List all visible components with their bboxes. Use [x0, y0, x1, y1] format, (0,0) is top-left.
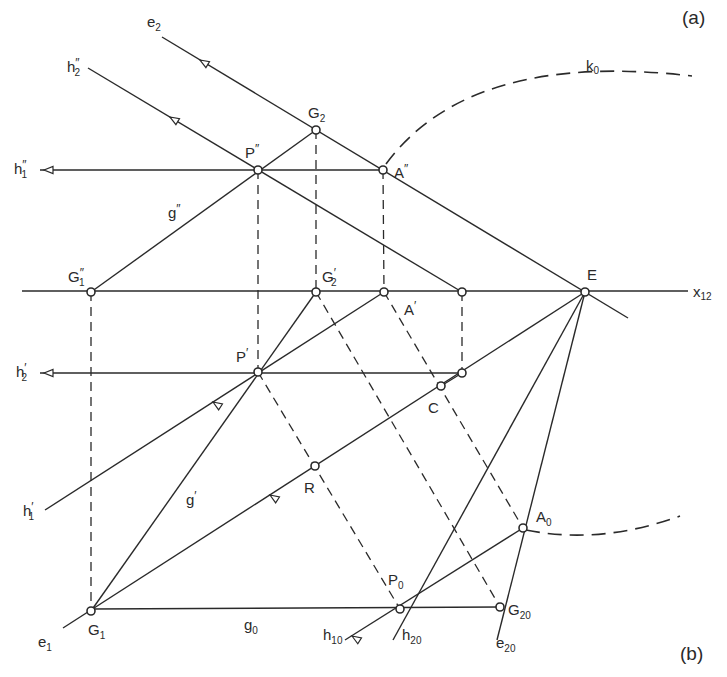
point-label-C: C: [428, 399, 439, 416]
point-G2: [312, 126, 320, 134]
line-label-e2: e2: [147, 13, 161, 33]
point-G2p: [312, 288, 320, 296]
point-A0: [519, 524, 527, 532]
e1-line: [63, 292, 585, 628]
point-label-R: R: [304, 479, 315, 496]
point-Ap: [380, 288, 388, 296]
line-label-gp: g′: [186, 489, 197, 508]
p-to-p0: [258, 372, 400, 609]
g0-line: [91, 607, 500, 609]
point-label-G2: G2: [308, 104, 326, 124]
h2pp-line: [88, 68, 462, 292]
point-G1pp: [87, 288, 95, 296]
point-G20: [496, 603, 504, 611]
h2pp-arrow-icon: [168, 114, 179, 125]
point-S: [458, 369, 466, 377]
point-label-App: A″: [394, 162, 409, 181]
h10-line: [345, 528, 523, 640]
point-label-G20: G20: [508, 601, 531, 621]
axis-label-x12: x12: [693, 283, 712, 302]
solid-lines: [22, 37, 688, 640]
h1p-arrow-icon: [211, 399, 222, 410]
point-Ppp: [254, 166, 262, 174]
a-ordinal: [383, 170, 384, 292]
k0-upper-arc: [386, 71, 692, 164]
labels: G2P″A″G″1G′2A′EP′CRA0P0G20G1e2h″2h″1g″h′…: [14, 13, 597, 654]
line-label-h1pp: h″1: [14, 158, 28, 180]
point-label-Ap: A′: [404, 299, 417, 318]
descriptive-geometry-figure: G2P″A″G″1G′2A′EP′CRA0P0G20G1e2h″2h″1g″h′…: [0, 0, 727, 677]
gp-line: [91, 292, 316, 611]
h10-arrow-icon: [350, 633, 361, 644]
line-label-h2pp: h″2: [67, 56, 81, 78]
line-label-e1: e1: [38, 633, 52, 653]
point-C: [437, 382, 445, 390]
point-P0: [396, 605, 404, 613]
h20-line: [393, 292, 585, 640]
a-to-a0: [384, 292, 523, 528]
point-Q: [458, 288, 466, 296]
e20-line: [497, 292, 585, 640]
panel-label-a: (a): [682, 7, 705, 28]
h2p-arrow-icon: [44, 370, 53, 377]
e2-arrow-icon: [198, 57, 209, 68]
point-label-Pp: P′: [236, 346, 249, 365]
k0-circle-arcs: [386, 71, 692, 535]
points: [87, 126, 589, 615]
gpp-line: [91, 130, 316, 292]
point-E: [581, 288, 589, 296]
h1pp-arrow-icon: [44, 167, 53, 174]
e1-arrow-icon: [268, 492, 279, 503]
point-label-A0: A0: [536, 508, 552, 528]
line-label-e20: e20: [496, 634, 516, 654]
panel-label-b: (b): [680, 643, 703, 664]
line-label-h1p: h′1: [23, 500, 35, 522]
point-R: [311, 462, 319, 470]
point-label-G1: G1: [88, 621, 106, 641]
construction-drawing: G2P″A″G″1G′2A′EP′CRA0P0G20G1e2h″2h″1g″h′…: [0, 0, 727, 677]
point-App: [379, 166, 387, 174]
line-label-gpp: g″: [168, 202, 181, 221]
point-label-G1pp: G″1: [68, 266, 85, 288]
line-label-h2p: h′2: [16, 361, 28, 383]
curve-label-k0: k0: [586, 57, 600, 76]
point-label-Ppp: P″: [245, 142, 260, 161]
line-label-h20: h20: [402, 626, 422, 646]
h1p-line: [45, 292, 384, 510]
point-G1: [87, 607, 95, 615]
point-label-E: E: [587, 266, 597, 283]
point-label-G2p: G′2: [322, 266, 337, 288]
point-Pp: [254, 368, 262, 376]
point-label-P0: P0: [388, 571, 404, 591]
line-label-h10: h10: [323, 626, 343, 646]
line-label-g0: g0: [244, 616, 258, 636]
